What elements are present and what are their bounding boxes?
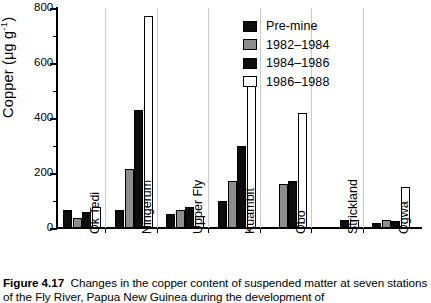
x-tick: [311, 228, 312, 233]
legend-label: 1984–1986: [266, 56, 329, 70]
bar-obo-1982-1984: [279, 184, 288, 228]
x-tick: [363, 228, 364, 233]
legend-item-pre-mine: Pre-mine: [243, 17, 393, 36]
y-axis-title-main: Copper: [0, 69, 16, 118]
legend-swatch-icon: [243, 39, 257, 50]
figure-caption-label: Figure 4.17: [3, 276, 64, 289]
legend-label: Pre-mine: [266, 19, 318, 33]
y-axis-title: Copper (μg g-1): [0, 17, 16, 118]
x-tick: [105, 228, 106, 233]
y-axis-units-open: (μg g: [0, 31, 16, 70]
legend-item-1986-1988: 1986–1988: [243, 73, 393, 92]
bar-ok-tedi-pre-mine: [63, 210, 72, 228]
bar-ogwa-pre-mine: [372, 223, 381, 229]
y-tick-label-400: 400: [34, 112, 53, 124]
y-tick-label-800: 800: [34, 2, 53, 14]
legend-item-1984-1986: 1984–1986: [243, 54, 393, 73]
y-axis-units-close: ): [0, 17, 16, 22]
group-separator: [105, 8, 106, 228]
y-tick-label-600: 600: [34, 57, 53, 69]
x-tick: [208, 228, 209, 233]
y-tick-label-0: 0: [47, 222, 53, 234]
legend-swatch-icon: [243, 76, 257, 87]
bar-upper-fly-pre-mine: [166, 214, 175, 228]
group-separator: [208, 8, 209, 228]
x-tick: [157, 228, 158, 233]
legend-swatch-icon: [243, 21, 257, 32]
y-tick-label-200: 200: [34, 167, 53, 179]
figure-caption: Figure 4.17 Changes in the copper conten…: [3, 276, 428, 303]
bar-ogwa-1982-1984: [382, 220, 391, 228]
bar-ningerum-pre-mine: [115, 210, 124, 228]
figure-caption-text-line2: the Fly River, Papua New Guinea during t…: [16, 290, 324, 303]
x-tick: [260, 228, 261, 233]
bar-kuambit-pre-mine: [218, 201, 227, 229]
y-axis-units-exponent: -1: [0, 22, 9, 31]
legend-swatch-icon: [243, 58, 257, 69]
legend-item-1982-1984: 1982–1984: [243, 36, 393, 55]
bar-upper-fly-1982-1984: [176, 210, 185, 228]
bar-kuambit-1982-1984: [228, 181, 237, 228]
group-separator: [157, 8, 158, 228]
bar-ningerum-1982-1984: [125, 169, 134, 228]
legend-label: 1982–1984: [266, 38, 329, 52]
legend: Pre-mine 1982–1984 1984–1986 1986–1988: [243, 17, 393, 91]
bar-ok-tedi-1982-1984: [73, 218, 82, 228]
legend-label: 1986–1988: [266, 75, 329, 89]
